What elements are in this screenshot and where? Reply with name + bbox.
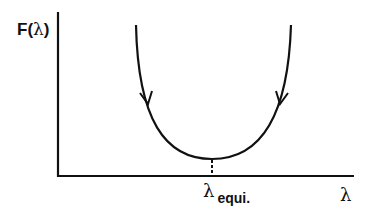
y-axis-label: F(λ) [17, 19, 50, 40]
diagram-canvas [0, 0, 372, 219]
min-label: λequi. [203, 180, 250, 202]
energy-curve [136, 25, 291, 159]
min-label-lambda: λ [203, 180, 214, 201]
x-axis-label: λ [340, 184, 351, 205]
y-label-suffix: ) [44, 20, 50, 39]
y-label-lambda: λ [33, 19, 44, 39]
min-label-subscript: equi. [217, 190, 250, 206]
y-label-prefix: F( [17, 20, 33, 39]
